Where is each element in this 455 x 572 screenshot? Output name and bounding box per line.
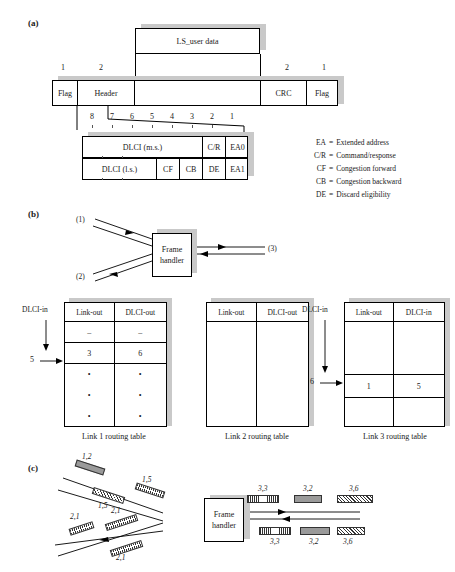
- frame-packet: [337, 527, 365, 535]
- frame-label: 3,3: [258, 484, 267, 493]
- frame-label: 2,1: [111, 506, 120, 515]
- frame-label: 2,1: [116, 553, 125, 562]
- frame-label: 1,2: [82, 452, 91, 461]
- frame-packet: [300, 527, 330, 535]
- frame-label: 3,2: [309, 537, 318, 546]
- frame-packet: [337, 495, 373, 503]
- frame-label: 1,5: [142, 475, 151, 484]
- frame-label: 1,5: [98, 501, 107, 510]
- frame-handler-c: Frame handler: [204, 498, 244, 542]
- frame-handler-c-line2: handler: [212, 520, 236, 531]
- frame-label: 3,6: [343, 537, 352, 546]
- frame-packet: [247, 495, 279, 503]
- frame-label: 3,3: [270, 537, 279, 546]
- frame-packet: [259, 527, 291, 535]
- panel-c-links: [0, 0, 455, 572]
- frame-label: 3,2: [303, 484, 312, 493]
- frame-handler-c-line1: Frame: [214, 509, 234, 520]
- frame-packet: [294, 495, 322, 503]
- frame-label: 2,1: [70, 512, 79, 521]
- frame-label: 3,6: [349, 484, 358, 493]
